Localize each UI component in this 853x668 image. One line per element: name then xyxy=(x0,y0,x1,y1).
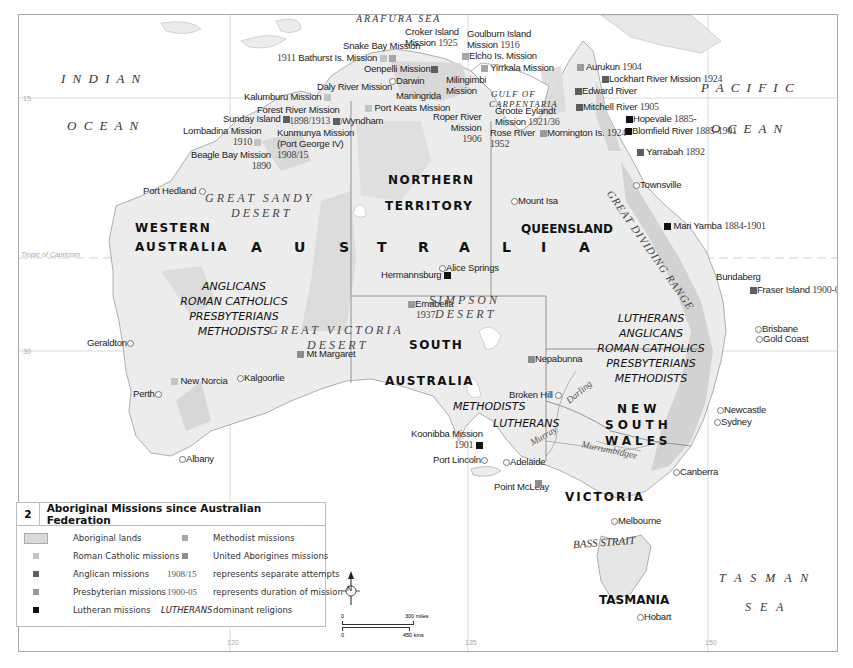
mission-yarrabah[interactable]: Yarrabah 1892 xyxy=(637,146,705,157)
mission-aurukun[interactable]: Aurukun 1904 xyxy=(577,61,642,72)
united-aborigines-mission-icon xyxy=(297,351,304,358)
mission-goulburn-island[interactable]: Goulburn IslandMission 1916 xyxy=(467,28,531,50)
aboriginal-lands-swatch xyxy=(24,533,48,544)
mission-lombadina[interactable]: Lombadina Mission1910 xyxy=(183,125,261,147)
gulf-of-carpentaria-label-1: GULF OF xyxy=(491,89,536,99)
legend-note-separate-attempts: represents separate attempts xyxy=(213,569,340,579)
indian-ocean-label-2: O C E A N xyxy=(67,118,140,134)
indian-ocean-label-1: I N D I A N xyxy=(61,71,142,87)
longitude-120-label: 120 xyxy=(227,639,239,646)
legend-note-sample: LUTHERANS xyxy=(161,605,212,615)
city-hobart: Hobart xyxy=(637,611,671,622)
lutheran-mission-icon xyxy=(626,116,633,123)
city-dot-icon xyxy=(155,391,162,398)
religions-east: LUTHERANS ANGLICANS ROMAN CATHOLICS PRES… xyxy=(591,311,711,386)
legend-item-methodist: Methodist missions xyxy=(213,533,295,543)
mission-fraser-island[interactable]: Fraser Island 1900-05 xyxy=(750,284,838,295)
australia-letter: R xyxy=(418,239,429,255)
latitude-30-label: 30 xyxy=(23,348,31,355)
tasman-sea-label-1: T A S M A N xyxy=(719,571,811,586)
australia-letter: U xyxy=(294,239,305,255)
presbyterian-mission-icon xyxy=(540,130,547,137)
anglican-mission-icon xyxy=(575,88,582,95)
mission-nepabunna[interactable]: Nepabunna xyxy=(528,353,582,364)
compass-rose: N xyxy=(341,571,361,607)
presbyterian-mission-icon xyxy=(408,301,415,308)
anglican-mission-icon xyxy=(333,118,340,125)
city-bundaberg: Bundaberg xyxy=(716,271,761,282)
anglican-mission-icon xyxy=(576,104,583,111)
methodist-mission-icon xyxy=(481,65,488,72)
city-dot-icon xyxy=(511,198,518,205)
mission-yirrkala[interactable]: Yirrkala Mission xyxy=(481,62,554,73)
mission-oenpelli[interactable]: Oenpelli Mission xyxy=(364,63,438,74)
city-dot-icon xyxy=(756,336,763,343)
mission-mt-margaret[interactable]: Mt Margaret xyxy=(297,348,355,359)
methodist-mission-icon xyxy=(462,53,469,60)
mission-roper-river[interactable]: Roper RiverMission1906 xyxy=(433,111,481,144)
legend-item-anglican: Anglican missions xyxy=(73,569,149,579)
longitude-150-label: 150 xyxy=(705,639,717,646)
legend-item-aboriginal-lands: Aboriginal lands xyxy=(73,533,141,543)
city-maningrida: Maningrida xyxy=(396,90,441,101)
city-melbourne: Melbourne xyxy=(611,515,661,526)
mission-milingimbi[interactable]: MilingimbiMission xyxy=(446,74,486,96)
religions-sa-methodists: METHODISTS xyxy=(453,399,526,414)
mission-new-norcia[interactable]: New Norcia xyxy=(171,375,228,386)
city-newcastle: Newcastle xyxy=(717,404,766,415)
south-australia-label-1: SOUTH xyxy=(409,337,463,353)
mission-blomfield-river[interactable]: Blomfield River 1885-1901 xyxy=(625,125,737,136)
roman-catholic-mission-icon xyxy=(254,139,261,146)
religions-wa: ANGLICANS ROMAN CATHOLICS PRESBYTERIANS … xyxy=(169,279,299,339)
great-sandy-desert-label-2: DESERT xyxy=(231,206,292,220)
australia-letter: A xyxy=(579,239,590,255)
city-perth: Perth xyxy=(133,388,162,399)
city-dot-icon xyxy=(717,407,724,414)
legend-item-united-aborigines: United Aborigines missions xyxy=(213,551,328,561)
mission-elcho-island[interactable]: Elcho Is. Mission xyxy=(462,50,537,61)
mission-ernabella[interactable]: Ernabella1937 xyxy=(408,298,453,320)
anglican-swatch xyxy=(33,571,39,577)
northern-territory-label-1: NORTHERN xyxy=(388,172,475,188)
methodist-mission-icon xyxy=(389,55,396,62)
mission-edward-river[interactable]: Edward River xyxy=(575,85,637,96)
mission-kunmunya[interactable]: Kunmunya Mission(Port George IV)1908/15 xyxy=(277,127,354,160)
queensland-label: QUEENSLAND xyxy=(521,221,613,237)
city-port-lincoln: Port Lincoln xyxy=(433,454,488,465)
city-dot-icon xyxy=(714,419,721,426)
mission-mornington-island[interactable]: Mornington Is. 1924 xyxy=(540,127,626,138)
scale-bar: 0 300 miles 0 450 kms xyxy=(341,613,431,645)
mission-koonibba[interactable]: Koonibba Mission1901 xyxy=(411,428,483,450)
city-gold-coast: Gold Coast xyxy=(756,333,809,344)
mission-rose-river[interactable]: Rose River1952 xyxy=(490,127,535,149)
legend-note-sample: 1900-05 xyxy=(167,587,197,597)
mission-sunday-island[interactable]: Sunday Island xyxy=(223,113,290,124)
city-sydney: Sydney xyxy=(714,416,752,427)
city-dot-icon xyxy=(481,457,488,464)
mission-hermannsburg[interactable]: Hermannsburg xyxy=(381,269,451,280)
city-mount-isa: Mount Isa xyxy=(511,195,558,206)
city-geraldton: Geraldton xyxy=(87,337,134,348)
city-dot-icon xyxy=(127,340,134,347)
united-aborigines-mission-icon xyxy=(528,356,535,363)
legend-item-roman-catholic: Roman Catholic missions xyxy=(73,551,179,561)
legend-note-duration: represents duration of mission xyxy=(213,587,343,597)
city-adelaide: Adelaide xyxy=(503,456,545,467)
mission-lockhart-river[interactable]: Lockhart River Mission 1924 xyxy=(602,73,722,84)
mission-kalumburu[interactable]: Kalumburu Mission xyxy=(244,91,331,102)
mission-bathurst[interactable]: 1911 Bathurst Is. Mission xyxy=(277,52,396,63)
city-broken-hill: Broken Hill xyxy=(509,389,562,400)
mission-mari-yamba[interactable]: Mari Yamba 1884-1901 xyxy=(664,220,766,231)
methodist-swatch xyxy=(182,535,188,541)
mission-groote-eylandt[interactable]: Groote EylandtMission 1921/36 xyxy=(495,105,560,127)
mission-beagle-bay[interactable]: Beagle Bay Mission1890 xyxy=(191,149,271,171)
mission-mitchell-river[interactable]: Mitchell River 1905 xyxy=(576,101,659,112)
tasman-sea-label-2: S E A xyxy=(745,600,786,615)
legend-header: 2 Aboriginal Missions since Australian F… xyxy=(17,503,325,526)
mission-croker-island[interactable]: Croker IslandMission 1925 xyxy=(405,26,459,48)
mission-hopevale[interactable]: Hopevale 1885- xyxy=(626,113,696,124)
legend-item-lutheran: Lutheran missions xyxy=(73,605,151,615)
city-townsville: Townsville xyxy=(633,179,681,190)
united-aborigines-swatch xyxy=(182,553,188,559)
city-dot-icon xyxy=(755,326,762,333)
